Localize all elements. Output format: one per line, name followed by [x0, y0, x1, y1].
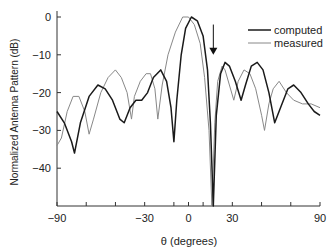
y-tick-label: −20	[32, 87, 51, 99]
legend-label-computed: computed	[274, 24, 322, 36]
x-tick-label: −30	[135, 212, 154, 224]
legend: computedmeasured	[248, 24, 323, 49]
y-tick-label: −30	[32, 124, 51, 136]
y-tick-label: −40	[32, 162, 51, 174]
legend-label-measured: measured	[274, 37, 323, 49]
x-tick-label: 0	[185, 212, 191, 224]
x-tick-label: 90	[314, 212, 326, 224]
x-tick-label: 30	[226, 212, 238, 224]
y-tick-label: −10	[32, 49, 51, 61]
x-axis-label: θ (degrees)	[161, 235, 217, 247]
y-axis-label: Normalized Antenna Pattern (dB)	[9, 39, 20, 186]
annotation-arrow	[209, 25, 217, 55]
y-tick-label: 0	[45, 11, 51, 23]
antenna-pattern-chart: 0−10−20−30−40−90−3003090 computedmeasure…	[0, 0, 336, 252]
x-tick-label: −90	[48, 212, 67, 224]
